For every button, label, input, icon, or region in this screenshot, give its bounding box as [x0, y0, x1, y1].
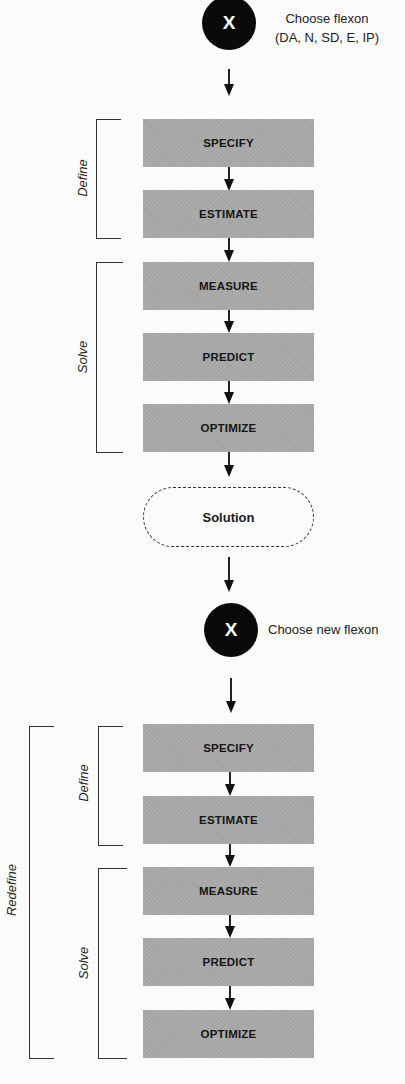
step-measure: MEASURE	[143, 262, 314, 310]
x-symbol: X	[223, 12, 236, 34]
arrow-line	[228, 167, 230, 179]
step-predict: PREDICT	[143, 333, 314, 381]
step-specify-2: SPECIFY	[143, 724, 314, 772]
choose-flexon-note: Choose flexon (DA, N, SD, E, IP)	[262, 9, 392, 47]
arrow-down-icon	[225, 998, 235, 1010]
arrow-line	[230, 678, 232, 702]
define-bracket-2	[98, 726, 123, 846]
note-line-1: Choose flexon	[262, 9, 392, 28]
arrow-line	[228, 238, 230, 250]
choose-flexon-node: X	[202, 0, 256, 50]
step-estimate: ESTIMATE	[143, 190, 314, 238]
solve-bracket	[96, 262, 123, 453]
arrow-line	[229, 772, 231, 784]
arrow-down-icon	[226, 701, 236, 713]
arrow-down-icon	[225, 926, 235, 938]
choose-new-flexon-node: X	[204, 603, 258, 657]
step-specify: SPECIFY	[143, 119, 314, 167]
arrow-down-icon	[224, 465, 234, 477]
x-symbol: X	[225, 619, 238, 641]
solve-label-2: Solve	[76, 923, 92, 1003]
define-label: Define	[75, 138, 91, 218]
arrow-down-icon	[224, 84, 234, 96]
redefine-bracket	[29, 726, 54, 1059]
step-estimate-2: ESTIMATE	[143, 796, 314, 844]
step-predict-2: PREDICT	[143, 938, 314, 986]
define-bracket	[96, 119, 121, 239]
solution-terminal: Solution	[143, 487, 314, 547]
arrow-down-icon	[224, 250, 234, 262]
solution-label: Solution	[203, 510, 255, 525]
define-label-2: Define	[76, 743, 92, 823]
arrow-down-icon	[224, 321, 234, 333]
redefine-label: Redefine	[4, 850, 20, 930]
step-measure-2: MEASURE	[143, 867, 314, 915]
choose-new-flexon-note: Choose new flexon	[268, 620, 398, 639]
arrow-line	[229, 986, 231, 998]
arrow-down-icon	[224, 580, 234, 592]
arrow-line	[228, 69, 230, 85]
arrow-line	[228, 452, 230, 466]
arrow-down-icon	[224, 392, 234, 404]
arrow-line	[228, 557, 230, 581]
arrow-down-icon	[225, 855, 235, 867]
arrow-down-icon	[225, 784, 235, 796]
note-line-2: (DA, N, SD, E, IP)	[262, 28, 392, 47]
step-optimize: OPTIMIZE	[143, 404, 314, 452]
solve-bracket-2	[98, 868, 127, 1059]
solve-label: Solve	[75, 317, 91, 397]
step-optimize-2: OPTIMIZE	[143, 1010, 314, 1058]
